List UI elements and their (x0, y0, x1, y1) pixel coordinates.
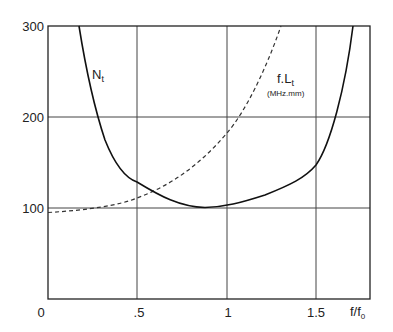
flt-label: f.Lt (277, 71, 294, 88)
y-tick-100: 100 (22, 201, 44, 216)
y-tick-200: 200 (22, 110, 44, 125)
x-tick-0.5: .5 (134, 305, 145, 320)
series-flt-dashed (48, 26, 281, 213)
flt-units-label: (MHz.mm) (267, 89, 305, 98)
x-axis-label: f/f0 (350, 304, 366, 321)
nt-label: Nt (92, 67, 104, 84)
x-tick-1: 1 (224, 305, 231, 320)
chart: 300 200 100 0 .5 1 1.5 f/f0 Nt f.Lt (MHz… (0, 0, 393, 332)
x-tick-0: 0 (37, 305, 44, 320)
y-tick-300: 300 (22, 19, 44, 34)
x-tick-1.5: 1.5 (307, 305, 325, 320)
